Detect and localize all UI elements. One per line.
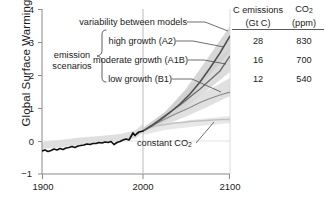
emission-scenarios-line1: emission [44,50,100,61]
annotation-variability: variability between models [57,17,187,28]
table-row: 12 540 [232,69,324,88]
emissions-table-body: 28 830 16 700 12 540 [232,31,324,88]
cell-co2-b1: 540 [284,69,324,88]
emissions-table: C emissions CO2 (Gt C) (ppm) 28 830 [232,4,324,88]
emission-scenarios-line2: scenarios [44,61,100,72]
table-row: 28 830 [232,31,324,50]
band-observed [42,124,143,149]
y-tick-0: 0 [12,136,34,147]
header-gt-c-units: (Gt C) [232,18,284,30]
y-axis-title: Global Surface Warming [20,0,32,138]
cell-emissions-a2: 28 [232,31,284,50]
y-tick-2: 2 [12,70,34,81]
leader-variability [187,22,228,31]
header-c-emissions: C emissions [232,4,284,18]
x-tick-2100: 2100 [208,181,252,192]
cell-emissions-b1: 12 [232,69,284,88]
annotation-high-growth: high growth (A2) [76,36,176,47]
y-tick-marks [38,10,42,175]
annotation-constant-co2: constant CO2 [137,138,192,151]
cell-co2-a1b: 700 [284,50,324,69]
cell-co2-a2: 830 [284,31,324,50]
y-tick-4: 4 [12,4,34,15]
cell-emissions-a1b: 16 [232,50,284,69]
table-row: 16 700 [232,50,324,69]
header-co2-subscript: 2 [309,7,313,14]
annotation-emission-scenarios: emission scenarios [44,50,100,71]
x-tick-1900: 1900 [21,181,65,192]
table-header-row-2: (Gt C) (ppm) [232,18,324,30]
annotation-low-growth: low growth (B1) [82,74,172,85]
emissions-table-grid: C emissions CO2 (Gt C) (ppm) 28 830 [232,4,324,88]
annotation-constant-co2-text: constant CO [137,138,188,148]
climate-projection-figure: Global Surface Warming 4 3 2 1 0 −1 1900… [0,0,325,202]
y-tick-neg1: −1 [10,168,32,179]
x-tick-2000: 2000 [121,181,165,192]
header-co2: CO2 [284,4,324,18]
y-tick-1: 1 [12,103,34,114]
x-tick-marks [43,174,230,179]
table-header-row-1: C emissions CO2 [232,4,324,18]
header-ppm-units: (ppm) [284,18,324,30]
y-tick-3: 3 [12,37,34,48]
annotation-constant-co2-subscript: 2 [188,141,192,148]
header-co2-text: CO [295,4,309,14]
